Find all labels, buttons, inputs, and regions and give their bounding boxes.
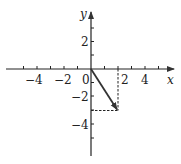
x-tick-label: −4	[25, 73, 43, 87]
vector-arrow	[91, 69, 117, 110]
y-axis-label: y	[79, 7, 87, 21]
origin-label: 0	[82, 73, 90, 87]
x-tick-label: 2	[121, 73, 129, 87]
coordinate-plane: y x 0 −4 −2 2 4 2 −2 −4	[0, 0, 181, 164]
x-tick-label: 4	[141, 73, 149, 87]
x-tick-label: −2	[54, 73, 72, 87]
x-axis-label: x	[167, 73, 174, 87]
y-tick-label: −2	[71, 90, 89, 104]
y-tick-label: −4	[71, 118, 89, 132]
y-tick-label: 2	[81, 35, 89, 49]
